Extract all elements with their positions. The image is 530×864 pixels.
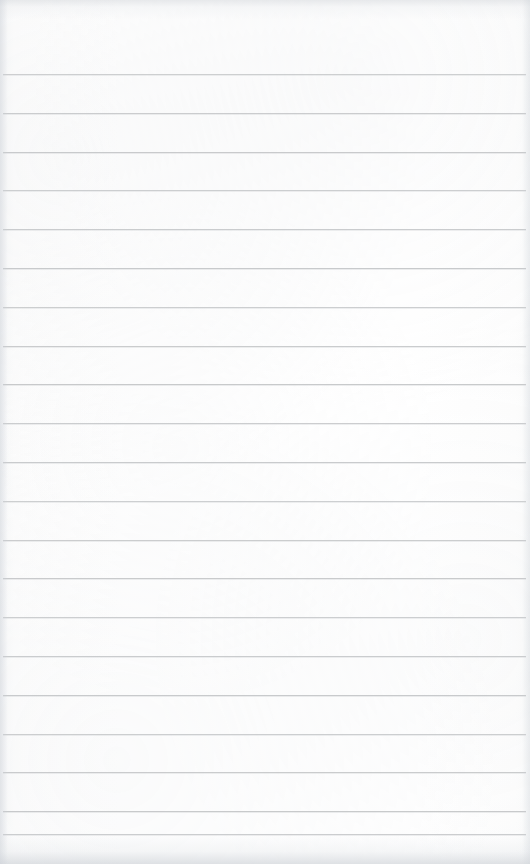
ruled-line xyxy=(3,501,526,502)
ruled-line xyxy=(3,307,526,308)
ruled-lines-group xyxy=(0,0,530,864)
ruled-line xyxy=(3,540,526,541)
ruled-line xyxy=(3,834,526,835)
ruled-line xyxy=(3,695,526,696)
ruled-line xyxy=(3,734,526,735)
scan-shadow-bottom xyxy=(0,836,530,864)
ruled-line xyxy=(3,772,526,773)
ruled-line xyxy=(3,384,526,385)
ruled-line xyxy=(3,423,526,424)
scanned-page xyxy=(0,0,530,864)
ruled-line xyxy=(3,578,526,579)
ruled-line xyxy=(3,229,526,230)
ruled-line xyxy=(3,190,526,191)
ruled-line xyxy=(3,74,526,75)
ruled-line xyxy=(3,811,526,812)
ruled-line xyxy=(3,346,526,347)
ruled-line xyxy=(3,656,526,657)
ruled-line xyxy=(3,113,526,114)
ruled-line xyxy=(3,617,526,618)
ruled-line xyxy=(3,152,526,153)
scan-shadow-left xyxy=(0,0,8,864)
scan-shadow-right xyxy=(522,0,530,864)
scan-shadow-top xyxy=(0,0,530,20)
ruled-line xyxy=(3,268,526,269)
ruled-line xyxy=(3,462,526,463)
